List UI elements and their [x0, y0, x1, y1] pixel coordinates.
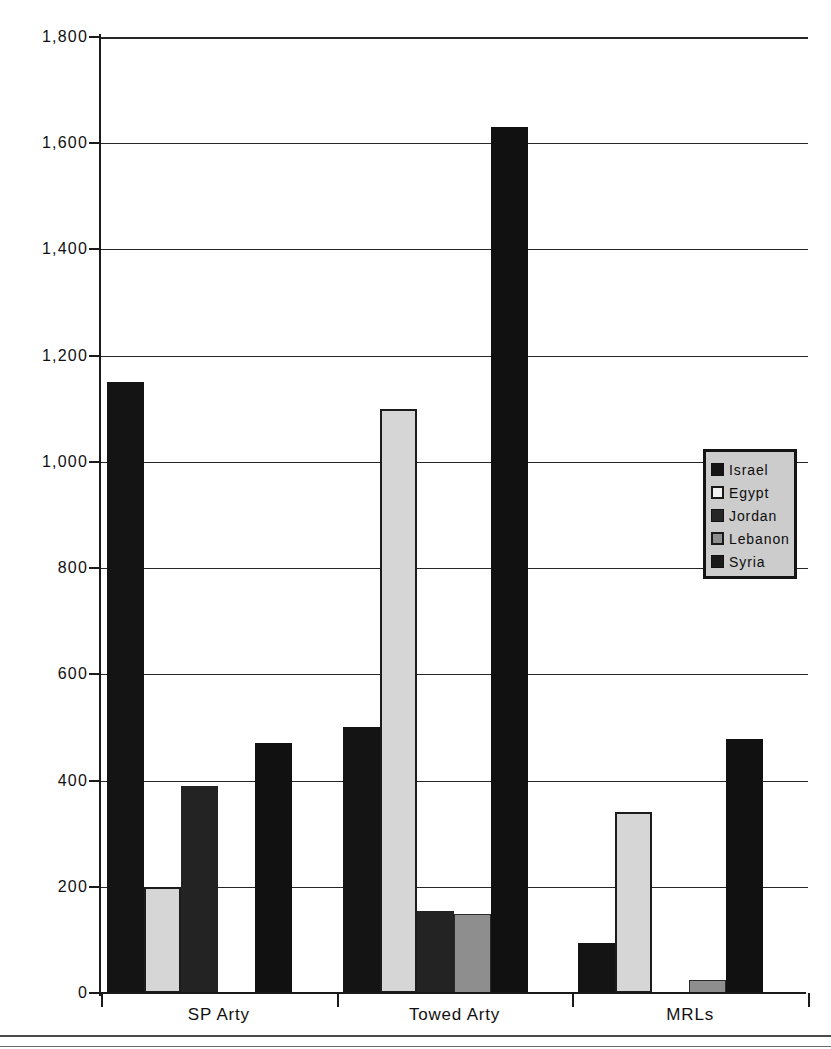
bar-israel-mrls: [578, 943, 615, 993]
legend-label-jordan: Jordan: [729, 509, 777, 523]
y-tick-label: 1,800: [2, 29, 88, 45]
bar-egypt-sp-arty: [144, 887, 181, 993]
legend-label-lebanon: Lebanon: [729, 532, 790, 546]
legend-item-egypt[interactable]: Egypt: [711, 481, 790, 504]
gridline: [101, 356, 808, 357]
bar-israel-sp-arty: [107, 382, 144, 993]
legend-swatch-israel-icon: [711, 463, 724, 476]
y-tick-label: 1,200: [2, 348, 88, 364]
bar-lebanon-towed-arty: [454, 914, 491, 993]
y-tick-label: 400: [2, 773, 88, 789]
page-divider-bottom: [0, 1046, 831, 1047]
chart-legend[interactable]: Israel Egypt Jordan Lebanon Syria: [703, 449, 797, 579]
y-tick-label: 0: [2, 985, 88, 1001]
y-tick-label: 800: [2, 560, 88, 576]
y-tick-label: 600: [2, 666, 88, 682]
gridline: [101, 568, 808, 569]
legend-item-jordan[interactable]: Jordan: [711, 504, 790, 527]
bar-chart: 02004006008001,0001,2001,4001,6001,800 S…: [0, 0, 831, 1049]
y-tick-label: 1,400: [2, 241, 88, 257]
legend-item-israel[interactable]: Israel: [711, 458, 790, 481]
gridline: [101, 781, 808, 782]
legend-swatch-lebanon-icon: [711, 532, 724, 545]
legend-item-lebanon[interactable]: Lebanon: [711, 527, 790, 550]
y-tick-label: 1,000: [2, 454, 88, 470]
gridline: [101, 674, 808, 675]
gridline: [101, 249, 808, 250]
x-axis-line: [99, 992, 806, 994]
bar-syria-mrls: [726, 739, 763, 993]
bar-egypt-mrls: [615, 812, 652, 993]
legend-label-israel: Israel: [729, 463, 769, 477]
page-divider-top: [0, 1035, 831, 1037]
x-axis-label-mrls: MRLs: [572, 1005, 808, 1025]
legend-swatch-syria-icon: [711, 555, 724, 568]
legend-swatch-egypt-icon: [711, 486, 724, 499]
legend-label-egypt: Egypt: [729, 486, 769, 500]
legend-label-syria: Syria: [729, 555, 765, 569]
bar-lebanon-mrls: [689, 980, 726, 993]
bar-israel-towed-arty: [343, 727, 380, 993]
x-axis-label-towed-arty: Towed Arty: [337, 1005, 573, 1025]
bar-syria-towed-arty: [491, 127, 528, 993]
plot-area: [101, 37, 808, 993]
legend-item-syria[interactable]: Syria: [711, 550, 790, 573]
bar-jordan-towed-arty: [417, 911, 454, 993]
gridline: [101, 143, 808, 144]
bar-jordan-sp-arty: [181, 786, 218, 993]
bar-egypt-towed-arty: [380, 409, 417, 993]
gridline: [101, 37, 808, 39]
y-tick-label: 200: [2, 879, 88, 895]
x-axis-label-sp-arty: SP Arty: [101, 1005, 337, 1025]
y-tick-label: 1,600: [2, 135, 88, 151]
bar-syria-sp-arty: [255, 743, 292, 993]
gridline: [101, 462, 808, 463]
legend-swatch-jordan-icon: [711, 509, 724, 522]
x-tick-mark: [808, 993, 810, 1007]
